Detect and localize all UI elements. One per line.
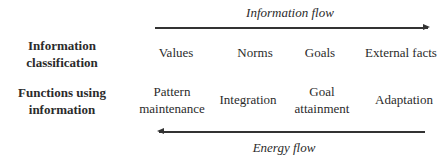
cell-norms: Norms: [237, 44, 272, 61]
energy-flow-arrow-left: [159, 131, 425, 133]
cell-adaptation: Adaptation: [375, 91, 433, 108]
row-label-line: Functions using: [0, 84, 124, 101]
cell-goals: Goals: [305, 44, 335, 61]
row-label-line: information: [0, 101, 124, 118]
cell-text: Adaptation: [375, 91, 433, 108]
cell-text: Goal: [295, 83, 350, 100]
cell-text: Goals: [305, 44, 335, 61]
cell-text: External facts: [365, 44, 437, 61]
cell-pattern-maintenance: Pattern maintenance: [139, 83, 205, 117]
information-flow-label: Information flow: [246, 5, 334, 21]
cell-goal-attainment: Goal attainment: [295, 83, 350, 117]
information-flow-arrow-right: [155, 27, 428, 29]
row-label-line: classification: [0, 54, 124, 71]
cell-external-facts: External facts: [365, 44, 437, 61]
energy-flow-label: Energy flow: [253, 140, 316, 156]
cell-text: maintenance: [139, 100, 205, 117]
cell-text: Pattern: [139, 83, 205, 100]
cell-text: attainment: [295, 100, 350, 117]
cell-text: Norms: [237, 44, 272, 61]
cell-integration: Integration: [219, 91, 276, 108]
cell-text: Integration: [219, 91, 276, 108]
row-label-information-classification: Information classification: [0, 37, 124, 71]
cell-values: Values: [159, 44, 194, 61]
row-label-line: Information: [0, 37, 124, 54]
row-label-functions-using-information: Functions using information: [0, 84, 124, 118]
cell-text: Values: [159, 44, 194, 61]
